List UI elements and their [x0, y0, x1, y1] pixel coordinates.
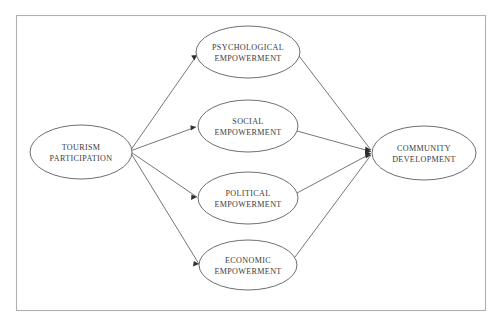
economic-empowerment-ellipse[interactable]: [199, 240, 297, 290]
psychological-empowerment-label-line1: PSYCHOLOGICAL: [212, 43, 284, 52]
node-tourism-participation[interactable]: TOURISM PARTICIPATION: [30, 125, 132, 179]
node-psychological-empowerment[interactable]: PSYCHOLOGICAL EMPOWERMENT: [196, 26, 300, 78]
economic-empowerment-label-line1: ECONOMIC: [225, 256, 271, 265]
conceptual-model-diagram: TOURISM PARTICIPATION PSYCHOLOGICAL EMPO…: [0, 0, 502, 325]
political-empowerment-ellipse[interactable]: [198, 172, 298, 224]
diagram-canvas: TOURISM PARTICIPATION PSYCHOLOGICAL EMPO…: [0, 0, 502, 325]
node-community-development[interactable]: COMMUNITY DEVELOPMENT: [372, 126, 476, 180]
tourism-participation-label-line2: PARTICIPATION: [50, 154, 113, 163]
social-empowerment-label-line1: SOCIAL: [232, 117, 263, 126]
node-social-empowerment[interactable]: SOCIAL EMPOWERMENT: [198, 100, 298, 152]
economic-empowerment-label-line2: EMPOWERMENT: [214, 267, 281, 276]
political-empowerment-label-line1: POLITICAL: [226, 189, 271, 198]
community-development-label-line1: COMMUNITY: [397, 144, 451, 153]
psychological-empowerment-label-line2: EMPOWERMENT: [214, 54, 281, 63]
tourism-participation-label-line1: TOURISM: [62, 143, 101, 152]
psychological-empowerment-ellipse[interactable]: [196, 26, 300, 78]
node-economic-empowerment[interactable]: ECONOMIC EMPOWERMENT: [199, 240, 297, 290]
tourism-participation-ellipse[interactable]: [30, 125, 132, 179]
node-political-empowerment[interactable]: POLITICAL EMPOWERMENT: [198, 172, 298, 224]
political-empowerment-label-line2: EMPOWERMENT: [214, 200, 281, 209]
social-empowerment-label-line2: EMPOWERMENT: [214, 128, 281, 137]
social-empowerment-ellipse[interactable]: [198, 100, 298, 152]
community-development-ellipse[interactable]: [372, 126, 476, 180]
community-development-label-line2: DEVELOPMENT: [392, 155, 456, 164]
